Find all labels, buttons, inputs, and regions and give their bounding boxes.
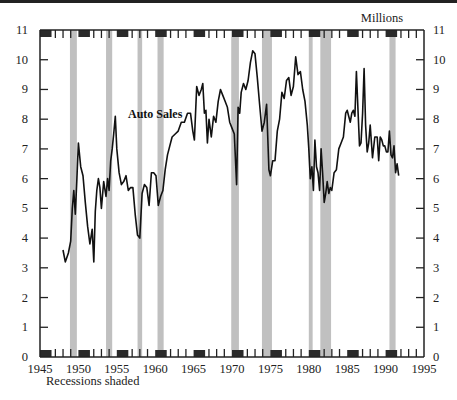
tick-labels: 0011223344556677889910101111194519501955… bbox=[16, 23, 446, 376]
year-block-bottom bbox=[155, 350, 167, 357]
year-block-top bbox=[232, 30, 244, 37]
year-block-top bbox=[155, 30, 167, 37]
year-block-bottom bbox=[386, 350, 398, 357]
y-tick-label-left: 6 bbox=[22, 172, 28, 186]
x-tick-label: 1985 bbox=[335, 362, 360, 376]
y-tick-label-left: 10 bbox=[16, 53, 29, 67]
y-tick-label-left: 4 bbox=[22, 231, 29, 245]
year-block-top bbox=[309, 30, 321, 37]
x-tick-label: 1975 bbox=[258, 362, 283, 376]
y-tick-label-left: 3 bbox=[22, 261, 28, 275]
y-tick-label-right: 4 bbox=[433, 231, 440, 245]
recession-band bbox=[231, 30, 239, 357]
year-block-bottom bbox=[117, 350, 129, 357]
year-block-top bbox=[40, 30, 52, 37]
y-tick-label-right: 6 bbox=[433, 172, 439, 186]
y-unit-label: Millions bbox=[361, 11, 404, 25]
y-tick-label-right: 10 bbox=[433, 53, 446, 67]
y-tick-label-left: 8 bbox=[22, 112, 28, 126]
y-tick-label-right: 3 bbox=[433, 261, 439, 275]
auto-sales-line bbox=[63, 51, 399, 262]
year-block-bottom bbox=[232, 350, 244, 357]
year-block-bottom bbox=[270, 350, 282, 357]
year-block-top bbox=[117, 30, 129, 37]
y-tick-label-left: 11 bbox=[16, 23, 28, 37]
y-tick-label-left: 5 bbox=[22, 201, 28, 215]
y-tick-label-left: 7 bbox=[22, 142, 28, 156]
y-tick-label-right: 11 bbox=[433, 23, 445, 37]
x-tick-label: 1995 bbox=[412, 362, 437, 376]
x-tick-label: 1970 bbox=[220, 362, 245, 376]
year-block-bottom bbox=[194, 350, 206, 357]
y-tick-label-left: 9 bbox=[22, 82, 28, 96]
year-block-bottom bbox=[40, 350, 52, 357]
x-tick-label: 1980 bbox=[296, 362, 321, 376]
recession-band bbox=[309, 30, 313, 357]
recession-band bbox=[158, 30, 164, 357]
year-block-bottom bbox=[347, 350, 359, 357]
year-block-bottom bbox=[309, 350, 321, 357]
year-block-top bbox=[270, 30, 282, 37]
y-tick-label-right: 8 bbox=[433, 112, 439, 126]
year-block-top bbox=[386, 30, 398, 37]
x-tick-label: 1965 bbox=[181, 362, 206, 376]
x-tick-label: 1960 bbox=[143, 362, 168, 376]
y-tick-label-right: 5 bbox=[433, 201, 439, 215]
year-block-top bbox=[347, 30, 359, 37]
series-label: Auto Sales bbox=[128, 107, 183, 121]
recession-bands bbox=[70, 30, 396, 357]
series-line bbox=[63, 51, 399, 262]
recession-band bbox=[389, 30, 395, 357]
y-tick-label-left: 1 bbox=[22, 320, 28, 334]
year-block-top bbox=[78, 30, 90, 37]
year-block-top bbox=[194, 30, 206, 37]
y-tick-label-left: 2 bbox=[22, 291, 28, 305]
recessions-footnote: Recessions shaded bbox=[46, 374, 140, 388]
y-tick-label-right: 1 bbox=[433, 320, 439, 334]
y-tick-label-right: 2 bbox=[433, 291, 439, 305]
y-tick-label-right: 9 bbox=[433, 82, 439, 96]
auto-sales-chart: 0011223344556677889910101111194519501955… bbox=[0, 0, 457, 400]
x-tick-label: 1990 bbox=[373, 362, 398, 376]
y-tick-label-right: 7 bbox=[433, 142, 439, 156]
recession-band bbox=[262, 30, 272, 357]
year-block-bottom bbox=[78, 350, 90, 357]
